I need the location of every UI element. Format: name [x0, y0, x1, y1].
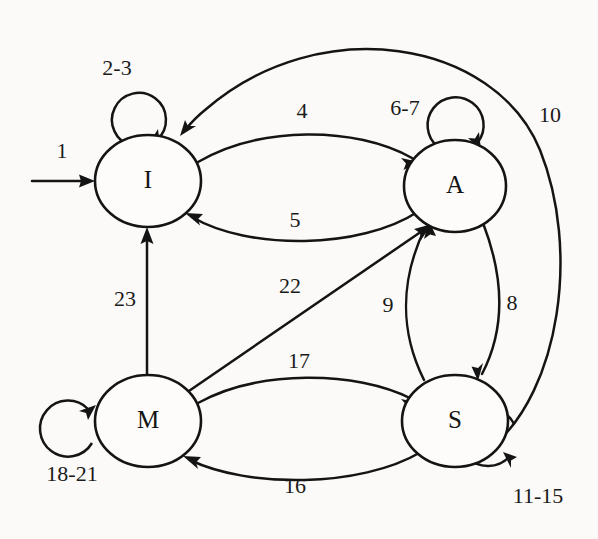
state-machine-diagram: 1 4 5 8 9 10: [0, 0, 598, 539]
edge-S-to-A[interactable]: 9: [383, 221, 437, 380]
node-M[interactable]: M: [95, 375, 201, 467]
edge-label-2-3: 2-3: [102, 55, 131, 80]
self-loop-M-path: [40, 401, 92, 457]
edge-I-to-A[interactable]: 4: [198, 98, 419, 170]
edge-label-17: 17: [288, 348, 310, 373]
edge-4-path: [198, 134, 412, 162]
arrowhead-start-to-I: [79, 175, 95, 188]
edge-M-to-A[interactable]: 22: [186, 224, 432, 393]
node-I-shape: [95, 135, 201, 227]
self-loop-M[interactable]: 18-21: [40, 401, 98, 486]
edge-label-1: 1: [57, 138, 68, 163]
edge-label-6-7: 6-7: [390, 95, 419, 120]
edge-label-18-21: 18-21: [46, 461, 97, 486]
node-M-shape: [95, 375, 201, 467]
node-A[interactable]: A: [404, 140, 506, 232]
edge-label-10: 10: [539, 102, 561, 127]
arrowhead-S-to-I: [180, 120, 196, 136]
edge-16-path: [190, 452, 421, 480]
edge-22-path: [186, 229, 425, 393]
edge-label-4: 4: [297, 98, 308, 123]
edge-label-8: 8: [507, 290, 518, 315]
edge-label-22: 22: [279, 273, 301, 298]
edge-A-to-I[interactable]: 5: [185, 207, 419, 241]
edge-17-path: [198, 378, 412, 403]
arrowhead-A-to-I: [185, 213, 203, 226]
edge-5-path: [192, 211, 419, 241]
state-machine-canvas: 1 4 5 8 9 10: [0, 0, 598, 539]
edge-start-to-I[interactable]: 1: [32, 138, 95, 187]
self-loop-I[interactable]: 2-3: [102, 55, 166, 147]
edge-A-to-S[interactable]: 8: [472, 223, 518, 381]
edge-label-9: 9: [383, 292, 394, 317]
node-S-shape: [402, 375, 508, 467]
edge-8-path: [482, 223, 499, 374]
edge-10-path: [185, 49, 560, 447]
edge-label-5: 5: [290, 207, 301, 232]
edge-9-path: [406, 228, 425, 380]
edge-M-to-S[interactable]: 17: [198, 348, 419, 411]
edge-label-23: 23: [114, 286, 136, 311]
edge-S-to-M[interactable]: 16: [183, 452, 421, 498]
node-S[interactable]: S: [402, 375, 508, 467]
node-I[interactable]: I: [95, 135, 201, 227]
edge-label-16: 16: [284, 473, 306, 498]
edge-label-11-15: 11-15: [513, 483, 564, 508]
node-A-shape: [404, 140, 506, 232]
edge-M-to-I[interactable]: 23: [114, 227, 154, 375]
